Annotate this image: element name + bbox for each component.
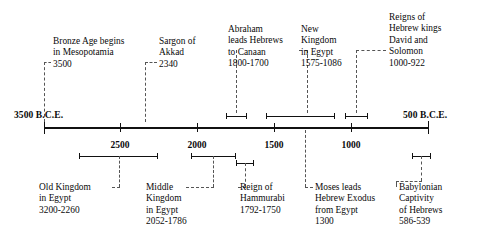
bracket-cap-left xyxy=(236,160,237,166)
event-line: 3500 xyxy=(53,59,124,70)
event-line: Abraham xyxy=(228,24,283,35)
event-line: 1800-1700 xyxy=(228,58,283,69)
bracket-cap-right xyxy=(430,153,431,159)
event-label-bronze-age: Bronze Age begins in Mesopotamia 3500 xyxy=(53,36,124,70)
bracket-bar xyxy=(345,116,368,117)
tick-label-2000: 2000 xyxy=(188,140,207,150)
leader-sargon-akkad xyxy=(145,62,146,122)
event-line: Babylonian xyxy=(399,182,442,193)
event-line: Hammurabi xyxy=(240,193,285,204)
event-line: from Egypt xyxy=(315,205,375,216)
event-line: 586-539 xyxy=(399,216,442,227)
leader-bronze-age xyxy=(44,62,45,122)
axis-tick-1000 xyxy=(351,123,352,132)
leader-bronze-age-elbow xyxy=(44,62,51,63)
event-line: 2340 xyxy=(159,59,196,70)
axis-tick-1500 xyxy=(274,123,275,132)
leader-sargon-akkad-elbow xyxy=(145,62,157,63)
event-line: Kingdom xyxy=(301,35,342,46)
leader-middle-kingdom-elbow xyxy=(186,187,214,188)
event-label-hebrew-exodus: Moses leads Hebrew Exodus from Egypt 130… xyxy=(315,182,375,228)
axis-end-cap xyxy=(428,121,429,134)
event-label-babylonian-captivity: Babylonian Captivity of Hebrews 586-539 xyxy=(399,182,442,228)
timeline-axis xyxy=(44,127,429,129)
bracket-cap-left xyxy=(226,113,227,119)
event-line: 2052-1786 xyxy=(146,216,187,227)
leader-middle-kingdom-egypt xyxy=(213,156,214,187)
event-line: in Egypt xyxy=(146,205,187,216)
bracket-cap-left xyxy=(79,153,80,159)
event-line: Moses leads xyxy=(315,182,375,193)
axis-tick-2000 xyxy=(197,123,198,132)
leader-babylonian-captivity xyxy=(421,156,422,181)
tick-label-2500: 2500 xyxy=(111,140,130,150)
event-label-new-kingdom-egypt: New Kingdom in Egypt 1575-1086 xyxy=(301,24,342,70)
event-line: Kingdom xyxy=(146,193,187,204)
bracket-cap-right xyxy=(367,113,368,119)
event-line: 1000-922 xyxy=(389,58,441,69)
event-line: Sargon of xyxy=(159,36,196,47)
event-line: Bronze Age begins xyxy=(53,36,124,47)
event-label-old-kingdom-egypt: Old Kingdom in Egypt 3200-2260 xyxy=(39,182,91,216)
event-line: leads Hebrews xyxy=(228,35,283,46)
event-line: in Mesopotamia xyxy=(53,47,124,58)
event-label-abraham-canaan: Abraham leads Hebrews to Canaan 1800-170… xyxy=(228,24,283,70)
event-line: Reigns of xyxy=(389,12,441,23)
tick-label-1500: 1500 xyxy=(265,140,284,150)
bracket-david-solomon xyxy=(345,113,368,119)
event-line: Middle xyxy=(146,182,187,193)
event-line: 1300 xyxy=(315,216,375,227)
bracket-cap-right xyxy=(253,160,254,166)
bracket-cap-left xyxy=(412,153,413,159)
event-line: of Hebrews xyxy=(399,205,442,216)
event-label-reign-of-hammurabi: Reign of Hammurabi 1792-1750 xyxy=(240,182,285,216)
leader-david-solomon-elbow xyxy=(356,50,386,51)
event-line: 1792-1750 xyxy=(240,205,285,216)
bracket-cap-right xyxy=(157,153,158,159)
event-line: Solomon xyxy=(389,46,441,57)
leader-hebrew-exodus xyxy=(305,130,306,187)
event-line: 1575-1086 xyxy=(301,58,342,69)
bracket-cap-left xyxy=(266,113,267,119)
event-line: David and xyxy=(389,35,441,46)
bracket-cap-right xyxy=(246,113,247,119)
bracket-cap-left xyxy=(191,153,192,159)
event-line: to Canaan xyxy=(228,47,283,58)
event-line: Captivity xyxy=(399,193,442,204)
event-line: Hebrew Exodus xyxy=(315,193,375,204)
leader-old-kingdom-elbow xyxy=(112,187,120,188)
event-line: in Egypt xyxy=(39,193,91,204)
event-line: Reign of xyxy=(240,182,285,193)
event-line: 3200-2260 xyxy=(39,205,91,216)
event-label-middle-kingdom-egypt: Middle Kingdom in Egypt 2052-1786 xyxy=(146,182,187,228)
leader-babylonian-drop xyxy=(396,181,397,187)
leader-hebrew-exodus-elbow xyxy=(305,187,313,188)
event-line: Old Kingdom xyxy=(39,182,91,193)
event-line: Akkad xyxy=(159,47,196,58)
bracket-abraham-canaan xyxy=(226,113,247,119)
bracket-bar xyxy=(226,116,247,117)
leader-old-kingdom-egypt xyxy=(119,156,120,187)
bracket-cap-right xyxy=(235,153,236,159)
axis-tick-2500 xyxy=(120,123,121,132)
leader-david-solomon xyxy=(356,50,357,113)
axis-end-label: 500 B.C.E. xyxy=(403,110,447,120)
bracket-cap-right xyxy=(334,113,335,119)
axis-start-label: 3500 B.C.E. xyxy=(14,110,63,120)
bracket-bar xyxy=(266,116,335,117)
tick-label-1000: 1000 xyxy=(342,140,361,150)
axis-start-cap xyxy=(44,121,45,134)
event-line: in Egypt xyxy=(301,47,342,58)
bracket-new-kingdom-egypt xyxy=(266,113,335,119)
event-label-sargon-akkad: Sargon of Akkad 2340 xyxy=(159,36,196,70)
event-line: Hebrew kings xyxy=(389,23,441,34)
timeline-figure: 3500 B.C.E. 500 B.C.E. 2500 2000 1500 10… xyxy=(0,0,483,242)
event-line: New xyxy=(301,24,342,35)
event-label-david-solomon: Reigns of Hebrew kings David and Solomon… xyxy=(389,12,441,69)
bracket-cap-left xyxy=(345,113,346,119)
